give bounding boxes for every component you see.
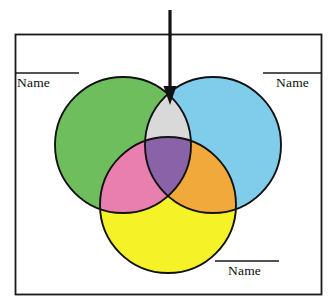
venn-diagram-figure: Name Name Name (0, 0, 336, 308)
set-label-right: Name (276, 76, 309, 90)
set-label-bottom: Name (228, 264, 261, 278)
set-label-left: Name (17, 76, 50, 90)
venn-diagram-canvas (0, 0, 336, 308)
